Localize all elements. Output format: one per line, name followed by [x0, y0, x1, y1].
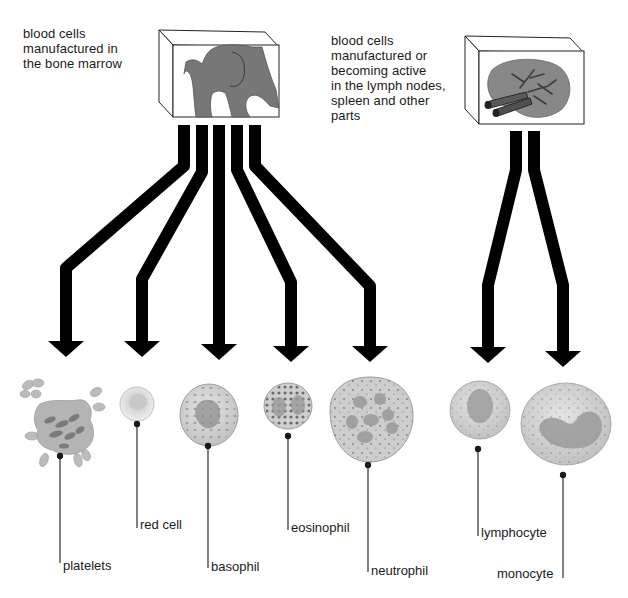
arrow-to-lymphocyte: [488, 131, 516, 350]
arrowhead-eosinophil: [273, 346, 309, 362]
label-eosinophil: eosinophil: [291, 521, 350, 535]
arrowhead-basophil: [201, 344, 237, 360]
arrowhead-monocyte: [545, 351, 581, 367]
basophil-cell: [180, 384, 238, 446]
bone-marrow-caption: blood cells manufactured in the bone mar…: [23, 26, 143, 71]
monocyte-cell: [521, 383, 611, 465]
lymph-arrows: [488, 131, 563, 355]
arrowhead-lymphocyte: [470, 347, 506, 363]
arrow-to-eosinophil: [237, 125, 291, 350]
arrowhead-platelets: [48, 341, 84, 357]
blood-cell-origin-diagram: [0, 0, 628, 598]
label-red-cell: red cell: [140, 518, 182, 532]
neutrophil-cell: [330, 377, 413, 462]
leader-lines: [57, 421, 565, 578]
marrow-arrowheads: [48, 341, 388, 362]
arrowhead-neutrophil: [352, 346, 388, 362]
arrowhead-red-cell: [124, 341, 160, 357]
label-platelets: platelets: [63, 559, 111, 573]
marrow-arrows: [66, 125, 370, 350]
lymphocyte-cell: [450, 381, 510, 439]
spleen-box: [465, 36, 584, 124]
eosinophil-cell: [264, 383, 312, 429]
arrow-to-monocyte: [534, 131, 563, 355]
arrow-to-red-cell: [142, 125, 202, 345]
spleen-illustration: [485, 59, 570, 117]
red-cell-cell: [120, 387, 154, 421]
lymph-caption: blood cells manufactured or becoming act…: [331, 33, 456, 123]
label-monocyte: monocyte: [497, 567, 553, 581]
bone-marrow-box: [159, 30, 279, 117]
label-lymphocyte: lymphocyte: [481, 526, 547, 540]
label-neutrophil: neutrophil: [371, 564, 428, 578]
label-basophil: basophil: [211, 560, 259, 574]
